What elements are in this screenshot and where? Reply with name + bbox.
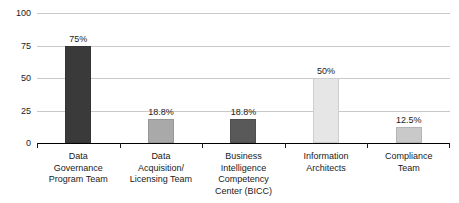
x-axis-labels: Data Governance Program Team Data Acquis… xyxy=(37,151,450,201)
bar-value-label-1: 18.8% xyxy=(148,107,174,117)
y-tick-label-100: 100 xyxy=(16,9,31,18)
x-axis-line xyxy=(37,143,450,144)
x-axis-label-0-line-1: Governance xyxy=(37,163,120,175)
x-axis-label-1: Data Acquisition/ Licensing Team xyxy=(120,151,203,186)
x-axis-label-4: Compliance Team xyxy=(367,151,450,174)
x-axis-tick-0 xyxy=(37,143,38,148)
x-axis-label-3-line-0: Information xyxy=(285,151,368,163)
x-axis-tick-4 xyxy=(367,143,368,148)
x-axis-tick-3 xyxy=(285,143,286,148)
bar-value-label-2: 18.8% xyxy=(231,107,257,117)
bar-value-label-0: 75% xyxy=(69,34,87,44)
bar-band-1: 18.8% xyxy=(120,13,203,143)
x-axis-label-0-line-0: Data xyxy=(37,151,120,163)
y-tick-label-75: 75 xyxy=(21,41,31,50)
bar-value-label-3: 50% xyxy=(317,66,335,76)
x-axis-label-2-line-2: Competency xyxy=(202,174,285,186)
x-axis-label-3-line-1: Architects xyxy=(285,163,368,175)
bar-3[interactable] xyxy=(313,78,339,143)
y-tick-label-0: 0 xyxy=(26,139,31,148)
plot-area: 100 75 50 25 0 75% 18.8% xyxy=(37,13,450,143)
bar-1[interactable] xyxy=(148,119,174,143)
bar-chart: 100 75 50 25 0 75% 18.8% xyxy=(0,0,459,203)
x-axis-label-0: Data Governance Program Team xyxy=(37,151,120,186)
x-axis-label-4-line-1: Team xyxy=(367,163,450,175)
y-tick-label-25: 25 xyxy=(21,106,31,115)
bar-series: 75% 18.8% 18.8% 50% 12.5% xyxy=(37,13,450,143)
x-axis-label-4-line-0: Compliance xyxy=(367,151,450,163)
x-axis-label-2-line-3: Center (BICC) xyxy=(202,186,285,198)
x-axis-label-2: Business Intelligence Competency Center … xyxy=(202,151,285,197)
x-axis-label-1-line-2: Licensing Team xyxy=(120,174,203,186)
y-tick-label-50: 50 xyxy=(21,74,31,83)
bar-2[interactable] xyxy=(230,119,256,143)
x-axis-tick-2 xyxy=(202,143,203,148)
x-axis-label-0-line-2: Program Team xyxy=(37,174,120,186)
x-axis-tick-5 xyxy=(449,143,450,148)
bar-band-3: 50% xyxy=(285,13,368,143)
x-axis-label-1-line-1: Acquisition/ xyxy=(120,163,203,175)
bar-band-2: 18.8% xyxy=(202,13,285,143)
bar-band-4: 12.5% xyxy=(367,13,450,143)
x-axis-label-1-line-0: Data xyxy=(120,151,203,163)
x-axis-label-2-line-1: Intelligence xyxy=(202,163,285,175)
x-axis-label-2-line-0: Business xyxy=(202,151,285,163)
bar-0[interactable] xyxy=(65,46,91,144)
x-axis-label-3: Information Architects xyxy=(285,151,368,174)
bar-value-label-4: 12.5% xyxy=(396,115,422,125)
bar-4[interactable] xyxy=(396,127,422,143)
bar-band-0: 75% xyxy=(37,13,120,143)
x-axis-tick-1 xyxy=(120,143,121,148)
